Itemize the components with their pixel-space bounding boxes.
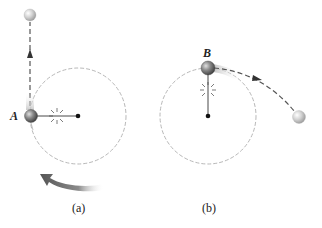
pivot-center-b bbox=[206, 114, 211, 119]
panel-a: A (a) bbox=[9, 9, 126, 215]
ball-later-a bbox=[24, 9, 36, 21]
motion-blur-b bbox=[213, 64, 240, 80]
caption-a: (a) bbox=[72, 201, 85, 215]
caption-b: (b) bbox=[202, 201, 216, 215]
ball-at-a bbox=[25, 110, 38, 123]
counterclockwise-arrow-icon bbox=[40, 174, 104, 191]
motion-blur-a bbox=[26, 92, 34, 110]
panel-b: B (b) bbox=[160, 46, 306, 215]
label-b: B bbox=[202, 46, 211, 60]
label-a: A bbox=[9, 109, 18, 123]
direction-arrow-icon bbox=[252, 75, 262, 81]
ball-at-b bbox=[201, 61, 215, 75]
ball-later-b bbox=[293, 111, 306, 124]
direction-arrow-icon bbox=[27, 49, 33, 58]
circular-motion-diagram: A (a) B (b) bbox=[0, 0, 322, 228]
pivot-center-a bbox=[76, 114, 81, 119]
